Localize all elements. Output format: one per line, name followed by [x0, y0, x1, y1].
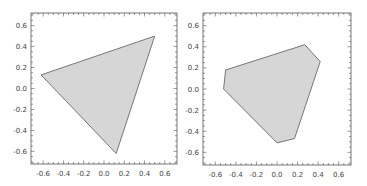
triangle-region-plot: -0.6-0.4-0.20.00.20.40.60.60.40.20.0-0.2… — [0, 0, 184, 186]
x-tick-label: 0.4 — [139, 170, 151, 178]
y-tick-label: 0.2 — [16, 64, 27, 72]
y-tick-label: -0.4 — [13, 127, 27, 135]
feasible-region-polygon — [224, 45, 321, 143]
x-tick-label: 0.2 — [292, 171, 303, 179]
x-tick-label: -0.2 — [250, 171, 264, 179]
x-tick-label: -0.4 — [229, 171, 243, 179]
x-tick-label: -0.4 — [57, 170, 71, 178]
y-tick-label: -0.6 — [13, 148, 27, 156]
y-tick-label: 0.6 — [16, 22, 28, 30]
x-tick-label: -0.6 — [36, 170, 50, 178]
y-tick-label: 0.2 — [188, 64, 199, 72]
y-tick-label: 0.4 — [188, 43, 200, 51]
hexagon-region-plot: -0.6-0.4-0.20.00.20.40.60.60.40.20.0-0.2… — [172, 0, 367, 186]
y-tick-label: -0.2 — [185, 107, 199, 115]
x-tick-label: 0.6 — [333, 171, 345, 179]
y-tick-label: 0.0 — [188, 86, 199, 94]
y-tick-label: -0.6 — [185, 149, 199, 157]
y-tick-label: -0.2 — [13, 106, 27, 114]
x-tick-label: 0.6 — [159, 170, 171, 178]
left-plot: -0.6-0.4-0.20.00.20.40.60.60.40.20.0-0.2… — [0, 0, 184, 186]
x-tick-label: 0.4 — [313, 171, 325, 179]
y-tick-label: 0.6 — [188, 22, 200, 30]
y-tick-label: 0.0 — [16, 85, 27, 93]
y-tick-label: -0.4 — [185, 128, 199, 136]
x-tick-label: -0.6 — [208, 171, 222, 179]
x-tick-label: 0.0 — [271, 171, 282, 179]
y-tick-label: 0.4 — [16, 43, 28, 51]
x-tick-label: 0.0 — [98, 170, 109, 178]
feasible-region-polygon — [41, 36, 155, 153]
x-tick-label: 0.2 — [119, 170, 130, 178]
right-plot: -0.6-0.4-0.20.00.20.40.60.60.40.20.0-0.2… — [172, 0, 356, 186]
x-tick-label: -0.2 — [77, 170, 91, 178]
